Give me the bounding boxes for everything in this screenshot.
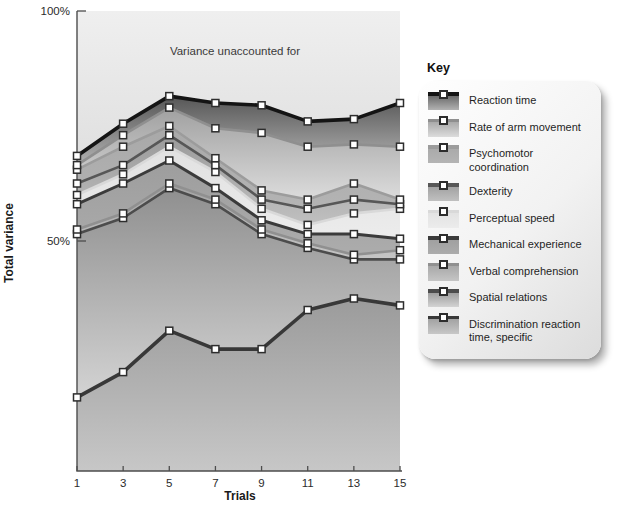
legend-item-mechanical-experience: Mechanical experience: [428, 236, 593, 254]
legend-item-verbal-comprehension: Verbal comprehension: [428, 263, 593, 281]
data-point-marker: [258, 226, 265, 233]
x-tick-label-5: 11: [302, 477, 314, 489]
legend-swatch: [428, 289, 459, 307]
legend-marker-icon: [439, 234, 448, 243]
data-point-marker: [350, 251, 357, 258]
data-point-marker: [350, 141, 357, 148]
legend-marker-icon: [439, 116, 448, 125]
data-point-marker: [212, 162, 219, 169]
legend-item-psychomotor-coordination: Psychomotor coordination: [428, 145, 593, 175]
legend-swatch: [428, 263, 459, 281]
data-point-marker: [74, 226, 81, 233]
data-point-marker: [166, 123, 173, 130]
legend-item-list: Reaction timeRate of arm movementPsychom…: [428, 92, 593, 345]
data-point-marker: [350, 231, 357, 238]
x-tick-label-4: 9: [258, 477, 264, 489]
data-point-marker: [397, 235, 404, 242]
data-point-marker: [166, 180, 173, 187]
legend-title: Key: [427, 61, 450, 75]
data-point-marker: [304, 307, 311, 314]
data-point-marker: [166, 93, 173, 100]
legend-item-label: Verbal comprehension: [469, 263, 593, 279]
data-point-marker: [120, 132, 127, 139]
data-point-marker: [74, 201, 81, 208]
data-point-marker: [74, 162, 81, 169]
data-point-marker: [212, 155, 219, 162]
data-point-marker: [258, 217, 265, 224]
data-point-marker: [350, 210, 357, 217]
legend-item-rate-of-arm-movement: Rate of arm movement: [428, 119, 593, 137]
data-point-marker: [166, 157, 173, 164]
legend-item-label: Discrimination reaction time, specific: [469, 316, 593, 346]
legend-swatch: [428, 210, 459, 228]
data-point-marker: [258, 187, 265, 194]
data-point-marker: [397, 302, 404, 309]
legend-item-label: Perceptual speed: [469, 210, 593, 226]
legend-item-spatial-relations: Spatial relations: [428, 289, 593, 307]
data-point-marker: [74, 152, 81, 159]
data-point-marker: [397, 247, 404, 254]
legend-marker-icon: [439, 260, 448, 269]
data-point-marker: [304, 231, 311, 238]
data-point-marker: [350, 295, 357, 302]
data-point-marker: [120, 210, 127, 217]
legend-marker-icon: [439, 181, 448, 190]
data-point-marker: [304, 221, 311, 228]
data-point-marker: [120, 171, 127, 178]
data-point-marker: [212, 169, 219, 176]
x-tick-label-1: 3: [120, 477, 126, 489]
legend-item-dexterity: Dexterity: [428, 183, 593, 201]
legend-swatch: [428, 119, 459, 137]
data-point-marker: [258, 346, 265, 353]
data-point-marker: [74, 180, 81, 187]
data-point-marker: [258, 129, 265, 136]
x-tick-label-2: 5: [166, 477, 172, 489]
data-point-marker: [350, 180, 357, 187]
data-point-marker: [212, 196, 219, 203]
data-point-marker: [258, 205, 265, 212]
x-axis-title: Trials: [224, 489, 256, 503]
x-tick-label-3: 7: [212, 477, 218, 489]
data-point-marker: [120, 369, 127, 376]
data-point-marker: [212, 346, 219, 353]
data-point-marker: [304, 205, 311, 212]
legend-swatch: [428, 183, 459, 201]
legend-item-discrimination-reaction-time-specific: Discrimination reaction time, specific: [428, 316, 593, 346]
y-tick-label-0: 100%: [41, 5, 70, 17]
legend-swatch: [428, 92, 459, 110]
legend-swatch: [428, 236, 459, 254]
data-point-marker: [120, 120, 127, 127]
data-point-marker: [166, 327, 173, 334]
data-point-marker: [304, 118, 311, 125]
legend-marker-icon: [439, 287, 448, 296]
data-point-marker: [212, 185, 219, 192]
x-tick-label-7: 15: [394, 477, 407, 489]
data-point-marker: [120, 162, 127, 169]
data-point-marker: [258, 102, 265, 109]
data-point-marker: [304, 196, 311, 203]
x-tick-label-0: 1: [74, 477, 80, 489]
data-point-marker: [120, 180, 127, 187]
data-point-marker: [166, 104, 173, 111]
legend-marker-icon: [439, 207, 448, 216]
data-point-marker: [74, 192, 81, 199]
data-point-marker: [350, 116, 357, 123]
data-point-marker: [212, 100, 219, 107]
data-point-marker: [258, 196, 265, 203]
annotation-variance-unaccounted: Variance unaccounted for: [170, 45, 300, 57]
data-point-marker: [397, 196, 404, 203]
data-point-marker: [166, 143, 173, 150]
data-point-marker: [166, 132, 173, 139]
data-point-marker: [397, 256, 404, 263]
legend-swatch: [428, 145, 459, 163]
data-point-marker: [350, 196, 357, 203]
legend-item-label: Mechanical experience: [469, 236, 593, 252]
legend-box: Reaction timeRate of arm movementPsychom…: [419, 81, 601, 359]
x-tick-label-6: 13: [347, 477, 360, 489]
legend-item-perceptual-speed: Perceptual speed: [428, 210, 593, 228]
legend-marker-icon: [439, 143, 448, 152]
legend-item-label: Rate of arm movement: [469, 119, 593, 135]
legend-item-label: Reaction time: [469, 92, 593, 108]
data-point-marker: [397, 143, 404, 150]
legend-item-reaction-time: Reaction time: [428, 92, 593, 110]
